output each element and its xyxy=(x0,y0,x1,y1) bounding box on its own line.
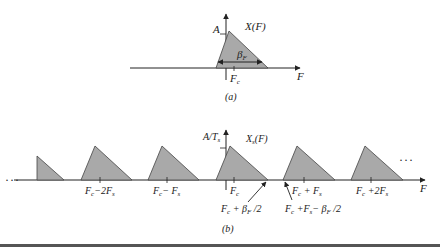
panel-b: ··· ··· A/Ts Xs(F) F Fc−2Fs Fc− Fs Fc Fc… xyxy=(5,130,427,235)
sampling-spectrum-diagram: A X(F) βF F Fc (a) ··· ··· A/Ts Xs(F) F xyxy=(0,0,440,250)
spectrum-label-b: Xs(F) xyxy=(245,133,268,146)
ellipsis-right: ··· xyxy=(399,153,414,167)
tick-label-fc: Fc xyxy=(229,185,240,198)
tick-label-fc-minus-2fs: Fc−2Fs xyxy=(84,185,115,198)
upper-edge-pointer xyxy=(248,182,266,202)
axis-label-a: F xyxy=(296,70,304,82)
spectrum-replica-minus-2 xyxy=(81,146,132,180)
spectrum-replica-plus-1 xyxy=(283,146,335,180)
ellipsis-left: ··· xyxy=(5,173,20,187)
spectrum-replica-0 xyxy=(216,146,268,180)
spectrum-replica-partial xyxy=(37,156,64,180)
axis-label-b: F xyxy=(419,182,427,194)
caption-a: (a) xyxy=(225,91,237,103)
amplitude-label-a: A xyxy=(212,23,220,35)
spectrum-replica-minus-1 xyxy=(148,146,199,180)
tick-label-fc-plus-2fs: Fc +2Fs xyxy=(355,185,389,198)
amplitude-label-b: A/Ts xyxy=(202,131,220,144)
annotation-upper-edge: Fc + βF /2 xyxy=(220,203,262,216)
tick-label-fc-plus-fs: Fc + Fs xyxy=(291,185,322,198)
spectrum-replica-plus-2 xyxy=(351,146,403,180)
annotation-lower-edge: Fc +Fs− βF /2 xyxy=(284,203,341,216)
caption-b: (b) xyxy=(222,223,234,235)
bottom-border xyxy=(0,244,440,247)
lower-edge-pointer xyxy=(285,182,292,200)
panel-a: A X(F) βF F Fc (a) xyxy=(130,14,304,103)
tick-label-fc-minus-fs: Fc− Fs xyxy=(152,185,181,198)
center-label-a: Fc xyxy=(229,72,241,86)
spectrum-label-a: X(F) xyxy=(244,20,266,33)
